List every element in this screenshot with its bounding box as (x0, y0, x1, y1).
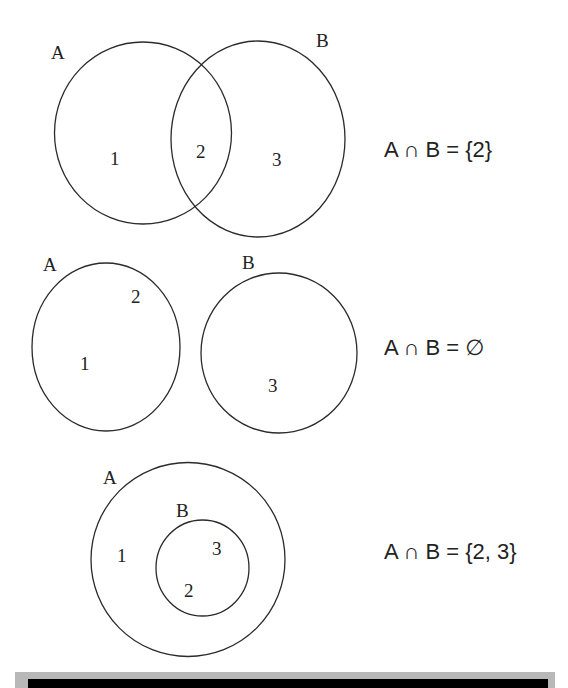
subset-diagram: A B 1 3 2 A ∩ B = {2, 3} (91, 463, 517, 657)
element-b-2: 2 (184, 580, 194, 601)
element-a-only: 1 (117, 545, 127, 566)
intersection-equation: A ∩ B = ∅ (384, 335, 484, 360)
element-b-1: 3 (268, 375, 278, 396)
set-a-circle (32, 263, 180, 431)
set-b-circle (171, 41, 345, 237)
set-a-label: A (43, 254, 57, 275)
set-b-circle (201, 273, 357, 433)
set-a-circle (55, 42, 232, 224)
set-a-label: A (51, 42, 65, 63)
element-b-only: 3 (272, 149, 282, 170)
set-b-label: B (176, 500, 189, 521)
element-intersection: 2 (196, 141, 206, 162)
overlap-diagram: A B 1 2 3 A ∩ B = {2} (51, 30, 492, 237)
element-a-1: 1 (80, 353, 90, 374)
set-b-circle (156, 520, 249, 616)
intersection-equation: A ∩ B = {2, 3} (384, 539, 517, 564)
element-a-only: 1 (110, 148, 120, 169)
set-a-label: A (103, 467, 117, 488)
disjoint-diagram: A B 1 2 3 A ∩ B = ∅ (32, 252, 484, 433)
set-b-label: B (242, 252, 255, 273)
element-a-2: 2 (131, 286, 141, 307)
footer-bar (28, 679, 548, 688)
venn-diagrams-figure: A B 1 2 3 A ∩ B = {2} A B 1 2 3 A ∩ B = … (0, 0, 568, 688)
element-b-1: 3 (212, 538, 222, 559)
set-b-label: B (316, 30, 329, 51)
intersection-equation: A ∩ B = {2} (384, 137, 492, 162)
